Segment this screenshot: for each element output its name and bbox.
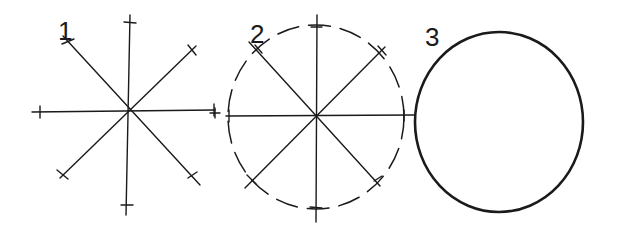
step-3-label: 3 bbox=[425, 22, 439, 52]
step-1-label: 1 bbox=[58, 16, 72, 46]
step-1-guides: 1 bbox=[32, 15, 215, 215]
circle-drawing-diagram: 1 2 3 bbox=[0, 0, 624, 230]
step-3-final-circle: 3 bbox=[415, 22, 583, 212]
step-2-dashed-circle: 2 bbox=[210, 15, 414, 222]
